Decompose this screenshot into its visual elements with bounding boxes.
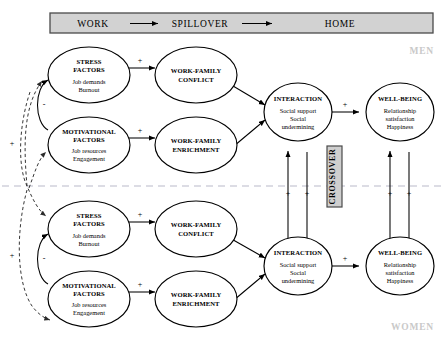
sign-motivational-enrichment-bottom: + — [138, 280, 143, 289]
node-shape — [48, 117, 130, 173]
node-title-line1: STRESS — [76, 212, 101, 219]
crossover-arrows: + + + + — [286, 151, 412, 249]
node-title-line2: FACTORS — [73, 66, 105, 73]
node-title-line1: INTERACTION — [274, 95, 323, 102]
sign-motivational-stress-top: - — [43, 100, 46, 109]
crossover-box: CROSSOVER — [327, 146, 342, 207]
sign-feedback-top-plus: + — [10, 139, 15, 148]
node-shape — [48, 271, 130, 327]
node-title-line1: MOTIVATIONAL — [62, 128, 116, 135]
sign-crossover-wellbeing-right: + — [407, 189, 412, 198]
crossover-label: CROSSOVER — [328, 148, 337, 204]
edge-feedback-women-to-men-stress — [25, 81, 42, 186]
node-sub-line2: Engagement — [73, 155, 105, 162]
node-shape — [48, 201, 130, 257]
sign-motivational-enrichment-top: + — [138, 126, 143, 135]
node-sub-line1: Job resources — [72, 301, 107, 308]
node-work-family-conflict-men[interactable]: WORK-FAMILY CONFLICT — [155, 47, 237, 103]
sign-crossover-interaction-right: + — [305, 189, 310, 198]
header-band: WORK SPILLOVER HOME — [50, 13, 433, 33]
node-shape — [155, 47, 237, 103]
node-title-line1: WELL-BEING — [378, 95, 422, 102]
node-sub-line1: Job resources — [72, 147, 107, 154]
node-stress-factors-women[interactable]: STRESS FACTORS Job demands Burnout — [48, 201, 130, 257]
node-sub-line1: Social support — [280, 261, 317, 268]
node-stress-factors-men[interactable]: STRESS FACTORS Job demands Burnout — [48, 47, 130, 103]
node-sub-line3: Happiness — [387, 123, 414, 130]
node-shape — [48, 47, 130, 103]
sign-feedback-bottom-plus: + — [10, 251, 15, 260]
node-title-line1: MOTIVATIONAL — [62, 282, 116, 289]
node-title-line1: WELL-BEING — [378, 249, 422, 256]
node-title-line1: WORK-FAMILY — [171, 221, 222, 228]
sign-crossover-interaction-left: + — [286, 189, 291, 198]
node-title-line2: CONFLICT — [178, 76, 214, 83]
node-title-line2: ENRICHMENT — [172, 146, 220, 153]
node-sub-line2: Engagement — [73, 309, 105, 316]
node-title-line1: WORK-FAMILY — [171, 291, 222, 298]
node-title-line2: ENRICHMENT — [172, 300, 220, 307]
edge-feedback-lower-loop — [19, 190, 50, 320]
sign-crossover-wellbeing-left: + — [388, 189, 393, 198]
node-title-line2: FACTORS — [73, 220, 105, 227]
node-sub-line2: Burnout — [79, 240, 100, 247]
sign-motivational-stress-bottom: - — [43, 254, 46, 263]
node-sub-line2: Burnout — [79, 86, 100, 93]
feedback-loops: + + — [10, 81, 50, 320]
node-shape — [155, 117, 237, 173]
work-family-crossover-diagram: WORK SPILLOVER HOME MEN WOMEN + + + - + … — [0, 0, 443, 344]
node-title-line1: STRESS — [76, 58, 101, 65]
node-work-family-enrichment-men[interactable]: WORK-FAMILY ENRICHMENT — [155, 117, 237, 173]
node-interaction-women[interactable]: INTERACTION Social support Social underm… — [264, 237, 332, 295]
sign-interaction-wellbeing-bottom: + — [343, 254, 348, 263]
node-title-line1: INTERACTION — [274, 249, 323, 256]
node-title-line1: WORK-FAMILY — [171, 137, 222, 144]
sign-stress-conflict-bottom: + — [138, 210, 143, 219]
node-well-being-men[interactable]: WELL-BEING Relationship satisfaction Hap… — [366, 83, 434, 141]
sign-stress-conflict-top: + — [138, 56, 143, 65]
node-sub-line2: Social — [290, 269, 306, 276]
node-sub-line1: Job demands — [72, 232, 106, 239]
edge-feedback-women-to-men-motivational — [29, 152, 46, 188]
node-sub-line1: Job demands — [72, 78, 106, 85]
node-title-line2: FACTORS — [73, 136, 105, 143]
gender-label-women: WOMEN — [391, 322, 434, 332]
node-sub-line3: undermining — [282, 123, 315, 130]
node-title-line2: CONFLICT — [178, 230, 214, 237]
node-motivational-factors-men[interactable]: MOTIVATIONAL FACTORS Job resources Engag… — [48, 117, 130, 173]
node-sub-line2: Social — [290, 115, 306, 122]
node-title-line1: WORK-FAMILY — [171, 67, 222, 74]
node-sub-line1: Relationship — [384, 261, 416, 268]
node-work-family-enrichment-women[interactable]: WORK-FAMILY ENRICHMENT — [155, 271, 237, 327]
node-sub-line1: Relationship — [384, 107, 416, 114]
node-work-family-conflict-women[interactable]: WORK-FAMILY CONFLICT — [155, 201, 237, 257]
header-label-home: HOME — [325, 19, 355, 29]
header-label-spillover: SPILLOVER — [172, 19, 229, 29]
node-interaction-men[interactable]: INTERACTION Social support Social underm… — [264, 83, 332, 141]
node-sub-line2: satisfaction — [385, 115, 415, 122]
node-sub-line2: satisfaction — [385, 269, 415, 276]
node-title-line2: FACTORS — [73, 290, 105, 297]
sign-interaction-wellbeing-top: + — [343, 100, 348, 109]
node-sub-line1: Social support — [280, 107, 317, 114]
node-shape — [155, 271, 237, 327]
node-well-being-women[interactable]: WELL-BEING Relationship satisfaction Hap… — [366, 237, 434, 295]
node-sub-line3: Happiness — [387, 277, 414, 284]
gender-label-men: MEN — [409, 46, 434, 56]
node-shape — [155, 201, 237, 257]
edge-feedback-men-to-women-stress — [21, 92, 46, 216]
diagram-canvas: WORK SPILLOVER HOME MEN WOMEN + + + - + … — [0, 0, 443, 344]
node-motivational-factors-women[interactable]: MOTIVATIONAL FACTORS Job resources Engag… — [48, 271, 130, 327]
node-sub-line3: undermining — [282, 277, 315, 284]
header-label-work: WORK — [77, 19, 108, 29]
